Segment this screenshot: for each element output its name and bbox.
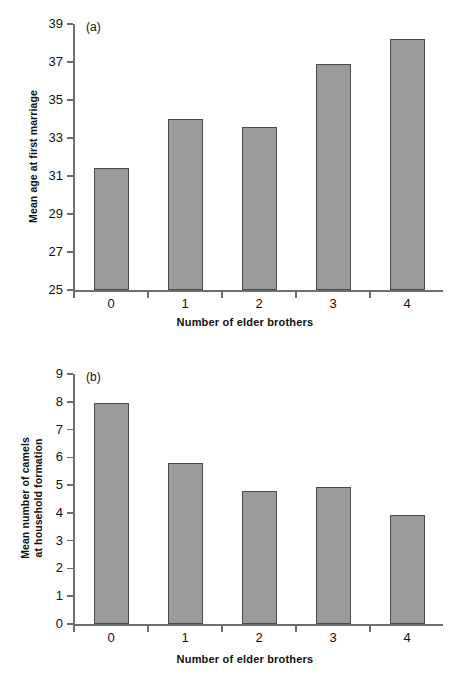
y-axis-tick (67, 401, 73, 403)
bar (316, 64, 351, 290)
y-axis-tick-label: 7 (37, 423, 63, 436)
x-axis-title-a: Number of elder brothers (60, 316, 430, 328)
chart-panel-b: Mean number of camels at household forma… (0, 340, 462, 681)
x-axis-tick (295, 626, 297, 632)
panel-tag-a: (a) (86, 20, 101, 34)
bar (242, 491, 277, 624)
y-axis-tick-label: 1 (37, 589, 63, 602)
y-axis-tick (67, 61, 73, 63)
x-axis-tick-label: 0 (96, 297, 126, 310)
x-axis-tick (295, 292, 297, 298)
y-axis-tick-label: 33 (37, 131, 63, 144)
x-axis-tick (147, 292, 149, 298)
x-axis-tick (147, 626, 149, 632)
bar (316, 487, 351, 625)
y-axis-tick-label: 8 (37, 395, 63, 408)
x-axis-tick (221, 626, 223, 632)
bar (94, 403, 129, 624)
x-axis-tick (221, 292, 223, 298)
y-axis-tick-label: 3 (37, 534, 63, 547)
y-axis-tick-label: 27 (37, 245, 63, 258)
plot-area-a: 252729313335373901234 (73, 24, 443, 290)
y-axis-tick (67, 23, 73, 25)
bar (242, 127, 277, 290)
y-axis-tick (67, 484, 73, 486)
y-axis-tick-label: 4 (37, 506, 63, 519)
y-axis-tick-label: 31 (37, 169, 63, 182)
bar (390, 39, 425, 290)
y-axis-tick-label: 0 (37, 617, 63, 630)
x-axis-tick-label: 4 (392, 631, 422, 644)
x-axis-tick-label: 3 (318, 631, 348, 644)
y-axis-tick-label: 37 (37, 55, 63, 68)
x-axis-line (73, 624, 443, 626)
x-axis-tick (73, 626, 75, 632)
y-axis-tick (67, 251, 73, 253)
y-axis-tick (67, 99, 73, 101)
y-axis-tick-label: 35 (37, 93, 63, 106)
y-axis-tick (67, 175, 73, 177)
y-axis-tick (67, 568, 73, 570)
bar (168, 463, 203, 624)
y-axis-tick-label: 2 (37, 561, 63, 574)
y-axis-title-b: Mean number of camels at household forma… (19, 373, 45, 623)
x-axis-tick (369, 292, 371, 298)
y-axis-tick-label: 6 (37, 450, 63, 463)
bar (94, 168, 129, 290)
y-axis-tick (67, 540, 73, 542)
y-axis-tick (67, 512, 73, 514)
y-axis-tick-label: 29 (37, 207, 63, 220)
y-axis-tick-label: 25 (37, 283, 63, 296)
y-axis-tick (67, 457, 73, 459)
y-axis-tick (67, 137, 73, 139)
x-axis-line (73, 290, 443, 292)
x-axis-tick-label: 3 (318, 297, 348, 310)
x-axis-tick-label: 2 (244, 631, 274, 644)
x-axis-tick-label: 2 (244, 297, 274, 310)
y-axis-tick (67, 595, 73, 597)
x-axis-tick-label: 4 (392, 297, 422, 310)
panel-tag-b: (b) (86, 370, 101, 384)
bar (390, 515, 425, 624)
y-axis-tick-label: 39 (37, 17, 63, 30)
y-axis-tick (67, 373, 73, 375)
plot-area-b: 012345678901234 (73, 374, 443, 624)
y-axis-tick-label: 5 (37, 478, 63, 491)
x-axis-title-b: Number of elder brothers (60, 653, 430, 665)
y-axis-tick-label: 9 (37, 367, 63, 380)
y-axis-tick (67, 429, 73, 431)
x-axis-tick-label: 0 (96, 631, 126, 644)
x-axis-tick-label: 1 (170, 297, 200, 310)
y-axis-line (73, 374, 75, 626)
x-axis-tick-label: 1 (170, 631, 200, 644)
x-axis-tick (73, 292, 75, 298)
y-axis-tick (67, 213, 73, 215)
bar (168, 119, 203, 290)
x-axis-tick (369, 626, 371, 632)
y-axis-line (73, 24, 75, 292)
chart-panel-a: Mean age at first marriage 2527293133353… (0, 0, 462, 340)
